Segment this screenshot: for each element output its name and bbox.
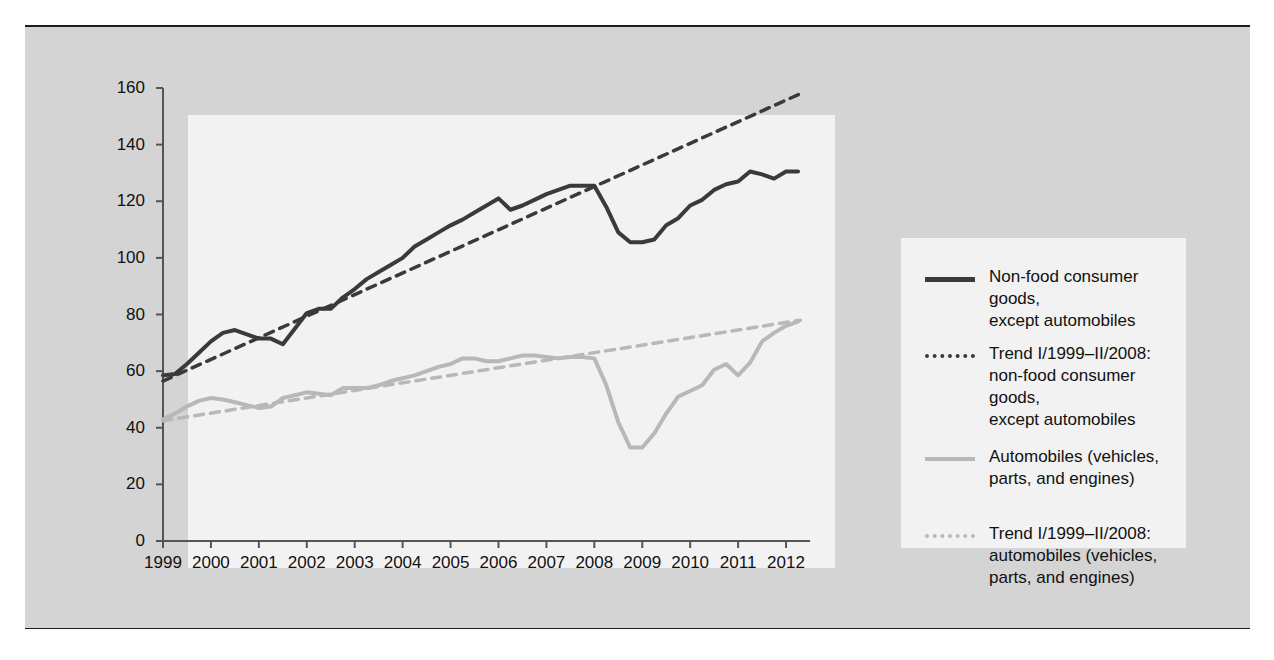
legend-item-label: Non-food consumer goods, except automobi… — [989, 266, 1186, 332]
y-axis-tick-label: 140 — [99, 135, 145, 155]
y-axis-tick-label: 0 — [99, 531, 145, 551]
legend-item-label: Trend I/1999–II/2008: automobiles (vehic… — [989, 523, 1157, 589]
y-axis-tick-label: 120 — [99, 191, 145, 211]
axis-layer — [156, 88, 810, 548]
dashed-dark-line-icon — [921, 346, 979, 366]
figure-page: 160140120100806040200 199920002001200220… — [0, 0, 1274, 660]
y-axis-tick-label: 40 — [99, 418, 145, 438]
series-layer — [163, 94, 800, 448]
y-axis-tick-label: 60 — [99, 361, 145, 381]
y-axis-tick-label: 20 — [99, 474, 145, 494]
y-axis-tick-label: 80 — [99, 305, 145, 325]
y-axis-tick-label: 160 — [99, 78, 145, 98]
legend-item: Non-food consumer goods, except automobi… — [921, 266, 1186, 332]
legend-item-label: Trend I/1999–II/2008: non-food consumer … — [989, 343, 1186, 431]
solid-gray-line-icon — [921, 449, 979, 469]
solid-dark-line-icon — [921, 269, 979, 289]
series-line-0 — [163, 172, 798, 376]
chart-legend: Non-food consumer goods, except automobi… — [901, 238, 1186, 548]
y-axis-tick-label: 100 — [99, 248, 145, 268]
legend-item: Trend I/1999–II/2008: non-food consumer … — [921, 343, 1186, 431]
legend-item: Automobiles (vehicles, parts, and engine… — [921, 446, 1159, 490]
series-line-3 — [163, 320, 800, 421]
series-line-1 — [163, 94, 800, 381]
legend-item: Trend I/1999–II/2008: automobiles (vehic… — [921, 523, 1157, 589]
dashed-gray-line-icon — [921, 526, 979, 546]
legend-item-label: Automobiles (vehicles, parts, and engine… — [989, 446, 1159, 490]
x-axis-tick-label: 2012 — [756, 553, 816, 573]
figure-panel: 160140120100806040200 199920002001200220… — [25, 27, 1250, 628]
